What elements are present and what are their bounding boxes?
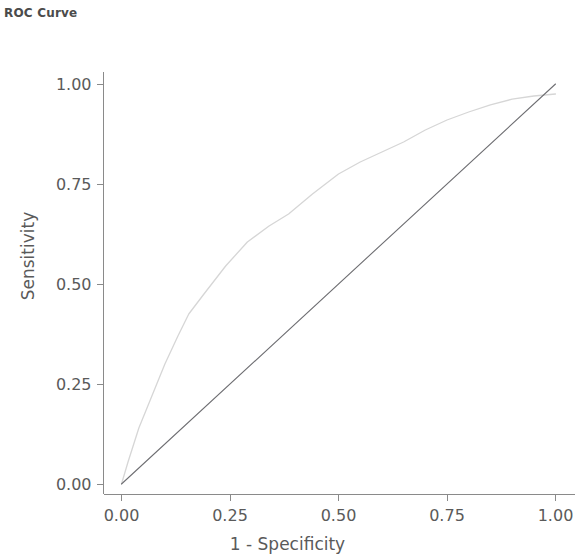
data-series <box>122 84 556 484</box>
y-tick-label: 0.00 <box>44 475 92 494</box>
reference-line <box>122 84 556 484</box>
x-tick-label: 0.00 <box>104 506 140 525</box>
x-tick-label: 0.25 <box>212 506 248 525</box>
y-tick-label: 1.00 <box>44 75 92 94</box>
y-axis-label: Sensitivity <box>18 186 38 326</box>
y-tick-label: 0.25 <box>44 375 92 394</box>
y-tick-label: 0.75 <box>44 175 92 194</box>
roc-chart: ROC Curve 0.000.250.500.751.00 0.000.250… <box>0 0 575 559</box>
roc-curve-line <box>122 94 556 484</box>
x-axis-label: 1 - Specificity <box>0 534 575 554</box>
x-tick-label: 0.75 <box>429 506 465 525</box>
x-tick-label: 0.50 <box>321 506 357 525</box>
y-tick-label: 0.50 <box>44 275 92 294</box>
x-tick-label: 1.00 <box>538 506 574 525</box>
